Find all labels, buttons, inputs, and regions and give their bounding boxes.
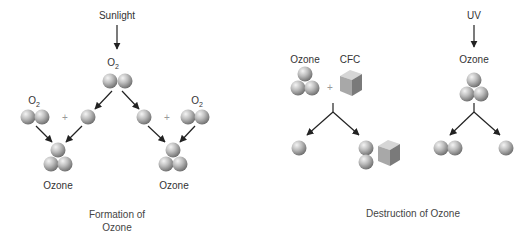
cfc-ozone-molecule-icon (291, 67, 320, 96)
arrow-icon (307, 112, 333, 135)
destruction-caption: Destruction of Ozone (366, 208, 460, 219)
right-o2-label: O2 (191, 95, 203, 108)
ozone-diagram: Sunlight O2 O2 + Ozone + O2 (0, 0, 530, 240)
left-o2-molecule-icon (21, 110, 50, 125)
plus-sign: + (327, 82, 333, 93)
vertical-o2-molecule-icon (359, 141, 374, 170)
right-ozone-molecule-icon (159, 143, 188, 172)
uv-o2-product-icon (434, 141, 463, 156)
left-ozone-label: Ozone (43, 180, 73, 191)
uv-ozone-molecule-icon (460, 73, 489, 102)
arrow-icon (66, 126, 82, 142)
split-arrow-right-icon (122, 91, 139, 109)
cfc-cube-product-icon (378, 140, 400, 166)
oxygen-atom-icon (499, 141, 514, 156)
arrow-icon (474, 112, 500, 135)
top-o2-label: O2 (107, 57, 119, 70)
uv-ozone-label: Ozone (459, 54, 489, 65)
cfc-label: CFC (340, 54, 361, 65)
left-o2-label: O2 (28, 95, 40, 108)
arrow-icon (450, 112, 474, 135)
formation-caption-line1: Formation of (89, 209, 145, 220)
plus-sign: + (164, 112, 170, 123)
split-arrow-left-icon (95, 91, 112, 109)
uv-label: UV (467, 10, 481, 21)
arrow-icon (333, 112, 359, 135)
oxygen-atom-icon (81, 110, 96, 125)
arrow-icon (148, 126, 165, 142)
formation-caption-line2: Ozone (102, 222, 132, 233)
destruction-panel: Ozone CFC + UV Ozone (290, 10, 513, 219)
oxygen-atom-icon (292, 141, 307, 156)
cfc-cube-icon (340, 70, 362, 96)
formation-panel: Sunlight O2 O2 + Ozone + O2 (21, 10, 210, 233)
plus-sign: + (62, 112, 68, 123)
right-ozone-label: Ozone (159, 180, 189, 191)
arrow-icon (36, 126, 52, 142)
cfc-ozone-label: Ozone (290, 54, 320, 65)
left-ozone-molecule-icon (44, 143, 73, 172)
sunlight-label: Sunlight (99, 10, 135, 21)
oxygen-atom-icon (137, 110, 152, 125)
top-o2-molecule-icon (103, 74, 133, 89)
right-o2-molecule-icon (181, 110, 210, 125)
arrow-icon (180, 126, 195, 142)
